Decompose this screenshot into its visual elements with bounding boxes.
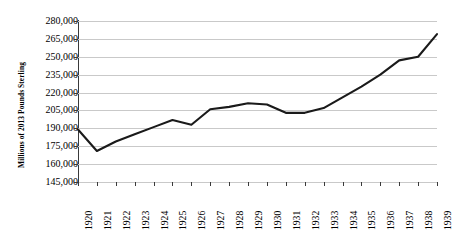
x-tick-label: 1939 <box>442 184 454 230</box>
y-tick-label: 235,000 <box>28 70 78 80</box>
x-tick-label: 1933 <box>329 184 341 230</box>
data-series-line <box>78 21 437 182</box>
y-axis-title: Millions of 2013 Pounds Sterling <box>14 0 28 230</box>
x-tick-label: 1937 <box>404 184 416 230</box>
y-tick-label: 145,000 <box>28 177 78 187</box>
x-axis-tick-labels: 1920192119221923192419251926192719281929… <box>78 184 437 230</box>
x-tick-label: 1923 <box>140 184 152 230</box>
y-tick-label: 175,000 <box>28 141 78 151</box>
x-tick-label: 1930 <box>272 184 284 230</box>
x-tick-label: 1934 <box>348 184 360 230</box>
x-tick-label: 1924 <box>159 184 171 230</box>
gridline <box>78 182 437 183</box>
line-chart: Millions of 2013 Pounds Sterling 145,000… <box>0 0 455 230</box>
x-tick-label: 1927 <box>215 184 227 230</box>
x-tick-label: 1936 <box>385 184 397 230</box>
x-tick-label: 1920 <box>83 184 95 230</box>
y-tick-label: 250,000 <box>28 52 78 62</box>
x-tick-label: 1932 <box>310 184 322 230</box>
x-tick-mark <box>437 182 438 186</box>
y-tick-label: 265,000 <box>28 34 78 44</box>
y-tick-label: 160,000 <box>28 159 78 169</box>
y-tick-label: 205,000 <box>28 105 78 115</box>
x-tick-label: 1931 <box>291 184 303 230</box>
y-tick-label: 220,000 <box>28 88 78 98</box>
x-tick-label: 1922 <box>121 184 133 230</box>
y-tick-label: 280,000 <box>28 16 78 26</box>
x-tick-label: 1929 <box>253 184 265 230</box>
x-tick-label: 1935 <box>366 184 378 230</box>
x-tick-label: 1928 <box>234 184 246 230</box>
x-tick-label: 1926 <box>196 184 208 230</box>
y-tick-label: 190,000 <box>28 123 78 133</box>
x-tick-label: 1925 <box>177 184 189 230</box>
y-axis-tick-labels: 145,000160,000175,000190,000205,000220,0… <box>28 14 78 189</box>
x-tick-label: 1938 <box>423 184 435 230</box>
x-tick-label: 1921 <box>102 184 114 230</box>
plot-area <box>78 21 437 182</box>
